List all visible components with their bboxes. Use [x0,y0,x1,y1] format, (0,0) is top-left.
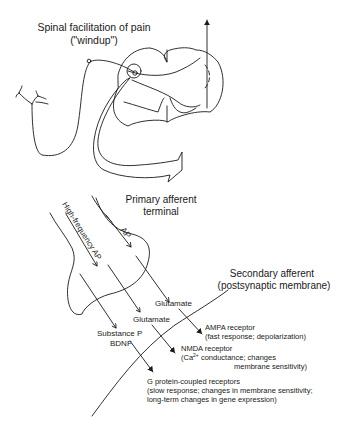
secondary-afferent-label-1: Secondary afferent [230,268,315,279]
curved-zoom-arrow [93,78,182,182]
gpcr-title: G protein-coupled receptors [147,377,240,386]
arrow-to-glutamate-1 [136,256,169,302]
ampa-desc: (fast response; depolarization) [205,332,306,341]
ampa-receptor-annotation: AMPA receptor (fast response; depolariza… [205,323,306,341]
diagram-title: Spinal facilitation of pain ("windup") [37,21,150,46]
bdnf-label: BDNF [110,339,132,348]
glutamate-label-2: Glutamate [133,315,170,324]
arrow-glutamate-to-nmda [152,325,175,353]
glutamate-label-1: Glutamate [155,299,192,308]
ap-label: AP [118,225,133,240]
title-line1: Spinal facilitation of pain [37,21,150,33]
windup-diagram: Spinal facilitation of pain ("windup") P… [0,0,352,433]
high-frequency-ap-signal: High-frequency AP [60,200,103,266]
gpcr-desc-1: (slow response; changes in membrane sens… [147,386,313,395]
arrow-to-glutamate-2 [108,265,140,312]
gpcr-annotation: G protein-coupled receptors (slow respon… [147,377,313,404]
high-frequency-ap-label: High-frequency AP [60,200,103,261]
arrow-glutamate-to-ampa [179,309,202,334]
title-line2: ("windup") [70,34,118,46]
primary-afferent-label-1: Primary afferent [126,194,197,205]
ap-signal: AP [106,215,133,247]
nmda-desc-1: (Ca2+ conductance; changes [181,352,276,362]
substance-p-label: Substance P [97,329,142,338]
gpcr-desc-2: long-term changes in gene expression) [147,395,277,404]
nmda-title: NMDA receptor [181,344,233,353]
peripheral-afferent-neuron [16,59,134,155]
primary-afferent-label-2: terminal [143,206,179,217]
ampa-title: AMPA receptor [205,323,255,332]
arrow-bdnf-to-gpcr [130,341,153,372]
arrow-to-substance-p [80,274,116,328]
nmda-receptor-annotation: NMDA receptor (Ca2+ conductance; changes… [181,344,307,371]
secondary-afferent-label-2: (postsynaptic membrane) [218,280,331,291]
nmda-desc-2: membrane sensitivity) [234,362,307,371]
